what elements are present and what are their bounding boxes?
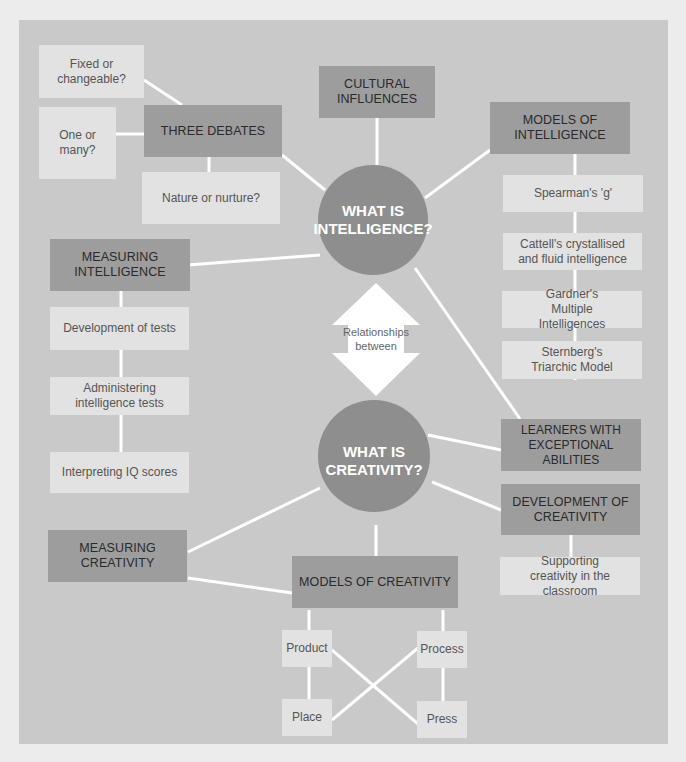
node-gardner: Gardner's Multiple Intelligences (502, 291, 642, 328)
node-measuring-creativity: MEASURING CREATIVITY (48, 530, 187, 582)
node-models-of-intelligence: MODELS OF INTELLIGENCE (490, 102, 630, 154)
label-line: CREATIVITY (534, 510, 608, 525)
node-cattell: Cattell's crystallised and fluid intelli… (503, 233, 642, 270)
label-line: LEARNERS WITH (521, 423, 621, 438)
relationships-label: Relationships between (326, 325, 426, 353)
label-line: INTELLIGENCE (514, 128, 606, 143)
label-line: DEVELOPMENT OF (512, 495, 628, 510)
label-line: CREATIVITY (81, 556, 155, 571)
label-line: CULTURAL (344, 77, 410, 92)
node-place: Place (282, 699, 332, 736)
label-line: EXCEPTIONAL ABILITIES (503, 438, 639, 468)
node-measuring-intelligence: MEASURING INTELLIGENCE (50, 239, 190, 291)
hub-label-line: INTELLIGENCE? (313, 220, 432, 238)
hub-what-is-creativity: WHAT IS CREATIVITY? (318, 400, 430, 512)
node-spearmans-g: Spearman's 'g' (503, 175, 643, 212)
node-administering-tests: Administering intelligence tests (50, 377, 189, 415)
node-fixed-or-changeable: Fixed or changeable? (39, 45, 144, 98)
node-interpreting-iq: Interpreting IQ scores (50, 452, 189, 493)
label-line: INFLUENCES (337, 92, 417, 107)
node-sternberg: Sternberg's Triarchic Model (502, 341, 642, 379)
hub-what-is-intelligence: WHAT IS INTELLIGENCE? (318, 165, 428, 275)
label-line: Relationships (326, 325, 426, 339)
node-development-of-tests: Development of tests (50, 307, 189, 350)
node-nature-or-nurture: Nature or nurture? (142, 172, 280, 224)
node-press: Press (417, 701, 467, 738)
node-models-of-creativity: MODELS OF CREATIVITY (292, 556, 458, 608)
label-line: between (326, 339, 426, 353)
node-three-debates: THREE DEBATES (144, 105, 282, 157)
hub-label-line: CREATIVITY? (325, 461, 422, 479)
label-line: MODELS OF (523, 113, 598, 128)
node-process: Process (417, 631, 467, 668)
node-development-of-creativity: DEVELOPMENT OF CREATIVITY (501, 484, 640, 535)
node-one-or-many: One or many? (39, 107, 116, 179)
node-product: Product (282, 630, 332, 667)
label-line: MEASURING (82, 250, 159, 265)
hub-label-line: WHAT IS (343, 443, 405, 461)
label-line: MEASURING (79, 541, 156, 556)
hub-label-line: WHAT IS (342, 202, 404, 220)
node-cultural-influences: CULTURAL INFLUENCES (319, 66, 435, 118)
label-line: INTELLIGENCE (74, 265, 166, 280)
node-learners-exceptional-abilities: LEARNERS WITH EXCEPTIONAL ABILITIES (501, 419, 641, 471)
node-supporting-creativity: Supporting creativity in the classroom (500, 557, 640, 595)
